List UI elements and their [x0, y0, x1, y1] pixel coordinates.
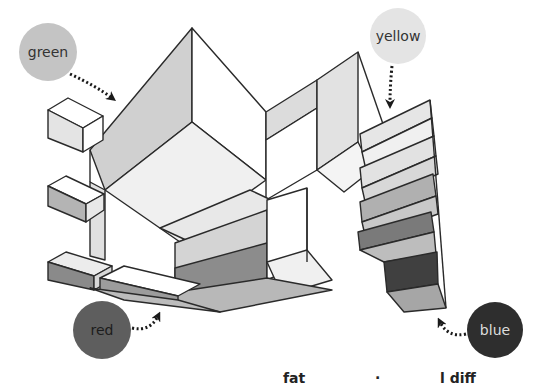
callout-green-label: green: [28, 44, 68, 60]
bottom-text-fragment-3: l diff: [440, 372, 476, 384]
callout-blue: blue: [467, 302, 523, 358]
callout-yellow-label: yellow: [376, 28, 421, 44]
callout-red: red: [73, 301, 131, 359]
clipped-bottom-text: fat · l diff: [0, 372, 544, 384]
bottom-text-fragment-1: fat: [283, 372, 305, 384]
bottom-text-fragment-2: ·: [375, 372, 380, 384]
callout-red-label: red: [91, 322, 114, 338]
callout-blue-label: blue: [480, 322, 510, 338]
green-arrow: [70, 74, 112, 98]
block-structure: [48, 28, 446, 312]
blue-arrow: [440, 322, 466, 335]
red-arrow: [132, 316, 158, 329]
callout-green: green: [19, 23, 77, 81]
yellow-arrow: [390, 66, 392, 104]
callout-yellow: yellow: [370, 8, 426, 64]
